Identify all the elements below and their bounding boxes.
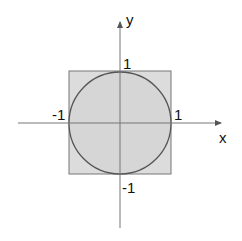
- y-axis-label: y: [126, 11, 134, 28]
- tick-x-neg: -1: [52, 106, 65, 123]
- x-axis-label: x: [219, 129, 227, 146]
- tick-y-pos: 1: [123, 55, 131, 72]
- tick-x-pos: 1: [174, 106, 182, 123]
- tick-y-neg: -1: [122, 179, 135, 196]
- diagram-canvas: y x 1 -1 1 -1: [0, 0, 242, 241]
